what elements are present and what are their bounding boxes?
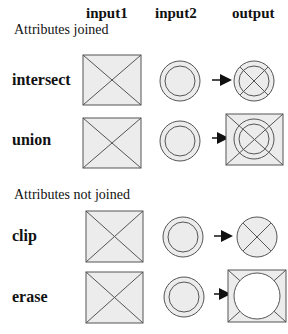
input1-square-intersect — [83, 55, 141, 105]
input2-ring-intersect — [160, 61, 200, 101]
input2-ring-union — [160, 121, 200, 161]
output-clip — [237, 217, 277, 257]
overlay-operations-diagram: input1 input2 output Attributes joined A… — [0, 0, 288, 334]
input1-square-clip — [86, 211, 143, 262]
output-intersect — [234, 61, 274, 101]
input1-square-erase — [86, 272, 143, 323]
diagram-shapes — [0, 0, 288, 334]
input1-square-union — [83, 118, 141, 168]
input2-ring-clip — [163, 217, 203, 257]
output-erase — [228, 270, 286, 322]
output-union — [226, 114, 283, 165]
input2-ring-erase — [164, 277, 204, 317]
